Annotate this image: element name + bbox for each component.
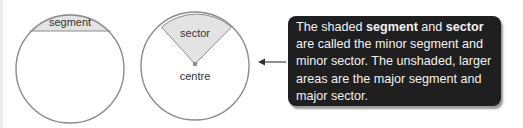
shaded-sector xyxy=(162,14,232,64)
segment-circle: segment xyxy=(16,14,124,123)
callout-text-3: are called the minor segment and minor s… xyxy=(296,37,491,103)
centre-label: centre xyxy=(180,70,211,82)
sector-label: sector xyxy=(180,27,210,39)
centre-point xyxy=(193,62,198,67)
arrow-icon xyxy=(258,59,286,66)
explanation-callout: The shaded segment and sector are called… xyxy=(288,16,501,106)
sector-circle: sector centre xyxy=(141,12,249,120)
segment-label: segment xyxy=(49,16,91,28)
callout-bold-segment: segment xyxy=(366,20,418,34)
callout-bold-sector: sector xyxy=(446,20,484,34)
callout-text-1: The shaded xyxy=(296,20,366,34)
callout-text-2: and xyxy=(418,20,446,34)
